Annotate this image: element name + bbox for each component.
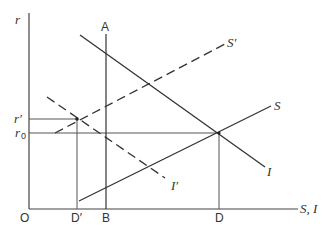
s-label: S [274, 98, 281, 113]
intersection-point-prime [75, 117, 79, 121]
x-axis-label: S, I [300, 201, 318, 216]
a-label: A [101, 20, 109, 34]
i-prime-label: I′ [170, 178, 178, 193]
y-axis-label: r [15, 12, 21, 27]
r-prime-label: r′ [14, 111, 22, 126]
i-label: I [266, 164, 272, 179]
diagram-canvas: r r′ r 0 A O D′ B D S, I S S′ I I′ [0, 0, 333, 238]
i-curve [80, 35, 265, 167]
d-prime-label: D′ [71, 211, 83, 225]
origin-label: O [20, 211, 29, 225]
r0-subscript: 0 [21, 131, 26, 141]
s-prime-label: S′ [227, 35, 237, 50]
intersection-point [217, 131, 220, 134]
b-label: B [102, 211, 110, 225]
d-label: D [215, 211, 224, 225]
